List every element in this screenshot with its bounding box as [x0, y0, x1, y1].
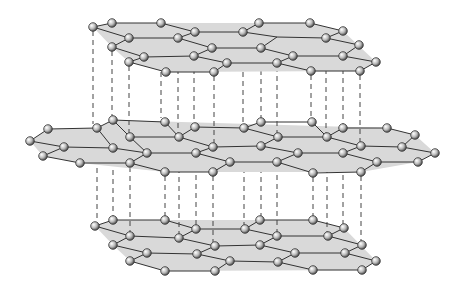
layer-middle [26, 116, 440, 178]
carbon-atom [355, 41, 364, 50]
carbon-atom [341, 249, 350, 258]
carbon-atom [161, 168, 170, 177]
carbon-atom [140, 53, 149, 62]
carbon-atom [108, 19, 117, 28]
carbon-atom [358, 241, 367, 250]
carbon-atom [26, 137, 35, 146]
carbon-atom [209, 168, 218, 177]
carbon-atom [324, 232, 333, 241]
carbon-atom [294, 149, 303, 158]
layer-top [89, 19, 381, 77]
carbon-atom [44, 125, 53, 134]
carbon-atom [211, 267, 220, 276]
carbon-atom [273, 232, 282, 241]
carbon-atom [211, 242, 220, 251]
carbon-atom [126, 159, 135, 168]
carbon-atom [357, 142, 366, 151]
carbon-atom [109, 216, 118, 225]
carbon-atom [93, 124, 102, 133]
carbon-atom [309, 266, 318, 275]
carbon-atom [240, 124, 249, 133]
graphite-lattice-diagram [0, 0, 463, 291]
carbon-atom [89, 23, 98, 32]
carbon-atom [191, 28, 200, 37]
carbon-atom [193, 250, 202, 259]
carbon-atom [255, 19, 264, 28]
lattice-canvas [0, 0, 463, 291]
carbon-atom [358, 266, 367, 275]
carbon-atom [109, 116, 118, 125]
carbon-atom [306, 19, 315, 28]
carbon-atom [273, 59, 282, 68]
carbon-atom [126, 232, 135, 241]
carbon-atom [143, 249, 152, 258]
carbon-atom [192, 149, 201, 158]
carbon-atom [208, 44, 217, 53]
carbon-atom [175, 234, 184, 243]
carbon-atom [174, 34, 183, 43]
carbon-atom [175, 133, 184, 142]
carbon-atom [372, 58, 381, 67]
carbon-atom [383, 124, 392, 133]
carbon-atom [241, 225, 250, 234]
carbon-atom [239, 28, 248, 37]
carbon-atom [126, 257, 135, 266]
carbon-atom [126, 133, 135, 142]
carbon-atom [372, 257, 381, 266]
carbon-atom [274, 258, 283, 267]
carbon-atom [308, 118, 317, 127]
carbon-atom [291, 249, 300, 258]
carbon-atom [161, 118, 170, 127]
carbon-atom [109, 241, 118, 250]
carbon-atom [39, 152, 48, 161]
carbon-atom [357, 168, 366, 177]
carbon-atom [323, 133, 332, 142]
carbon-atom [209, 143, 218, 152]
carbon-atom [108, 43, 117, 52]
carbon-atom [322, 34, 331, 43]
carbon-atom [398, 143, 407, 152]
carbon-atom [309, 216, 318, 225]
carbon-atom [109, 144, 118, 153]
carbon-atom [125, 34, 134, 43]
carbon-atom [157, 19, 166, 28]
carbon-atom [373, 158, 382, 167]
carbon-atom [411, 131, 420, 140]
carbon-atom [191, 123, 200, 132]
carbon-atom [307, 67, 316, 76]
carbon-atom [257, 118, 266, 127]
carbon-atom [339, 149, 348, 158]
bond [313, 172, 361, 173]
carbon-atom [192, 225, 201, 234]
carbon-atom [76, 159, 85, 168]
carbon-atom [91, 222, 100, 231]
carbon-atom [162, 68, 171, 77]
carbon-atom [210, 68, 219, 77]
carbon-atom [60, 143, 69, 152]
carbon-atom [226, 257, 235, 266]
carbon-atom [256, 241, 265, 250]
carbon-atom [257, 44, 266, 53]
carbon-atom [143, 149, 152, 158]
carbon-atom [161, 267, 170, 276]
carbon-atom [339, 52, 348, 61]
carbon-atom [431, 149, 440, 158]
carbon-atom [273, 158, 282, 167]
carbon-atom [223, 59, 232, 68]
carbon-atom [339, 27, 348, 36]
carbon-atom [309, 169, 318, 178]
layer-bottom [91, 216, 381, 276]
carbon-atom [274, 133, 283, 142]
carbon-atom [340, 224, 349, 233]
carbon-atom [226, 158, 235, 167]
carbon-atom [125, 58, 134, 67]
carbon-atom [257, 142, 266, 151]
carbon-atom [339, 124, 348, 133]
carbon-atom [289, 52, 298, 61]
carbon-atom [356, 67, 365, 76]
carbon-atom [414, 158, 423, 167]
carbon-atom [256, 216, 265, 225]
carbon-atom [190, 52, 199, 61]
carbon-atom [161, 216, 170, 225]
